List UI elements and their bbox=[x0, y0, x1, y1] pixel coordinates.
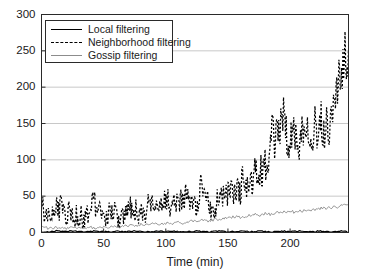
y-tick-label: 150 bbox=[0, 117, 36, 129]
legend-line-solid-icon bbox=[50, 24, 83, 35]
y-tick-label: 100 bbox=[0, 153, 36, 165]
legend-item-neighborhood: Neighborhood filtering bbox=[46, 36, 172, 49]
x-tick-label: 50 bbox=[84, 237, 124, 249]
y-tick-label: 200 bbox=[0, 80, 36, 92]
x-tick-label: 200 bbox=[270, 237, 310, 249]
legend-item-gossip: Gossip filtering bbox=[46, 49, 172, 62]
y-tick-label: 250 bbox=[0, 44, 36, 56]
x-tick-label: 150 bbox=[208, 237, 248, 249]
chart-figure: 050100150200250300 050100150200 Time (mi… bbox=[0, 0, 370, 277]
x-tick-label: 100 bbox=[146, 237, 186, 249]
legend-item-local: Local filtering bbox=[46, 23, 172, 36]
y-tick-label: 300 bbox=[0, 8, 36, 20]
legend-line-dashed-icon bbox=[50, 37, 83, 48]
y-tick-label: 50 bbox=[0, 189, 36, 201]
chart-legend: Local filtering Neighborhood filtering G… bbox=[45, 20, 173, 63]
x-axis-label: Time (min) bbox=[42, 255, 349, 269]
legend-label-neighborhood: Neighborhood filtering bbox=[88, 37, 191, 48]
legend-label-gossip: Gossip filtering bbox=[88, 50, 157, 61]
x-tick-label: 0 bbox=[22, 237, 62, 249]
gridlines bbox=[42, 51, 349, 196]
legend-line-gossip-icon bbox=[50, 50, 83, 61]
legend-label-local: Local filtering bbox=[88, 24, 150, 35]
